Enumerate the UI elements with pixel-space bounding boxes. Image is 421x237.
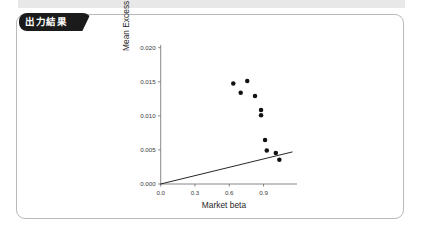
top-grey-band	[18, 0, 405, 8]
x-tick-label: 0.9	[255, 189, 273, 196]
x-axis-title: Market beta	[0, 200, 421, 210]
x-tick-label: 0.6	[220, 189, 238, 196]
x-tick-label: 0.0	[152, 189, 170, 196]
y-tick-label: 0.020	[127, 44, 156, 51]
x-tick-label: 0.3	[186, 189, 204, 196]
y-tick-label: 0.005	[127, 146, 156, 153]
output-result-tab-label: 出力結果	[25, 15, 67, 29]
y-axis-title: Mean Excess Return	[121, 0, 131, 51]
y-tick-label: 0.000	[127, 180, 156, 187]
y-tick-label: 0.015	[127, 78, 156, 85]
y-tick-label: 0.010	[127, 112, 156, 119]
output-result-card	[16, 14, 404, 219]
